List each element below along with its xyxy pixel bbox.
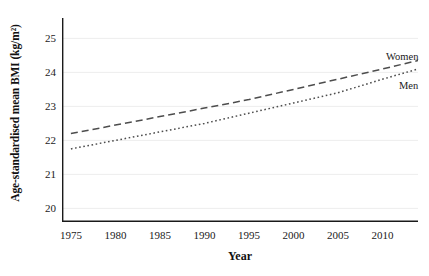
series-label-men: Men [399,80,418,91]
x-axis-tick-labels: 19751980198519901995200020052010 [0,0,429,276]
x-axis-title: Year [62,249,418,264]
x-tick-label: 1975 [49,230,93,241]
x-tick-label: 1990 [182,230,226,241]
bmi-trend-chart: Age-standardised mean BMI (kg/m²) 202122… [0,0,429,276]
series-label-women: Women [386,51,418,62]
x-tick-label: 2005 [316,230,360,241]
x-tick-label: 1980 [93,230,137,241]
x-tick-label: 2000 [271,230,315,241]
x-tick-label: 1995 [227,230,271,241]
x-tick-label: 2010 [360,230,404,241]
x-tick-label: 1985 [138,230,182,241]
